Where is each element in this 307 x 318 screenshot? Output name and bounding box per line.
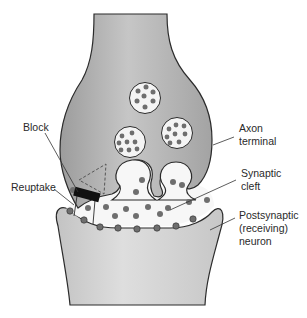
synaptic-vesicle [115,127,146,158]
label-axon-terminal-1: Axon [239,122,263,134]
synaptic-vesicle [130,83,161,114]
label-postsynaptic-2: (receiving) [239,222,288,234]
label-block: Block [23,121,49,133]
label-postsynaptic-1: Postsynaptic [239,209,299,221]
synapse-diagram: Block Reuptake Axon terminal Synaptic cl… [0,0,307,318]
synaptic-vesicle [162,118,193,149]
label-postsynaptic-3: neuron [239,235,272,247]
label-synaptic-cleft-2: cleft [241,180,260,192]
label-reuptake: Reuptake [11,181,56,193]
label-axon-terminal-2: terminal [239,135,276,147]
axon-terminal-leader-line [213,137,234,145]
label-synaptic-cleft-1: Synaptic [241,167,281,179]
